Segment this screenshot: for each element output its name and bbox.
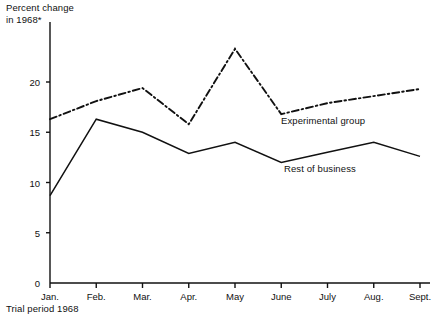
x-axis-tick-label: Aug. [364,291,384,302]
series-label-experimental-group: Experimental group [281,115,365,126]
x-axis-tick-label: Mar. [133,291,151,302]
chart-series-rest-of-business [50,119,420,195]
y-axis-tick-label: 20 [18,77,40,88]
x-axis-tick-label: Feb. [87,291,106,302]
x-axis-tick-label: July [319,291,336,302]
series-label-rest-of-business: Rest of business [284,163,356,174]
y-axis-tick-label: 0 [18,278,40,289]
x-axis-tick-label: May [226,291,244,302]
y-axis-tick-label: 15 [18,127,40,138]
y-axis-tick-label: 5 [18,227,40,238]
x-axis-title: Trial period 1968 [6,303,79,314]
x-axis-tick-label: Jan. [41,291,59,302]
x-axis-tick-label: Apr. [180,291,197,302]
y-axis-tick-label: 10 [18,177,40,188]
chart-series-experimental-group [50,49,420,124]
x-axis-tick-label: June [271,291,292,302]
chart-container: Percent change in 1968* Trial period 196… [0,0,437,323]
chart-plot-area [0,0,437,323]
x-axis-tick-label: Sept. [409,291,431,302]
